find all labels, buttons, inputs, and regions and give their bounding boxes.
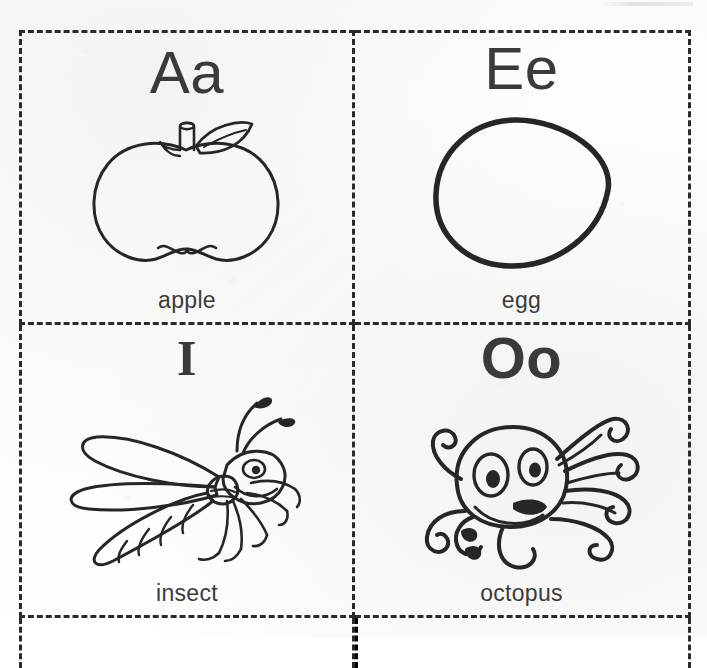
insect-illustration (22, 383, 352, 582)
scan-artifact (597, 2, 693, 6)
flashcard-a[interactable]: Aa apple (19, 30, 355, 325)
flashcard-o[interactable]: Oo (355, 325, 691, 618)
octopus-illustration (355, 387, 688, 582)
flashcard-next-row-left (19, 618, 355, 668)
egg-illustration (355, 99, 688, 289)
letter-heading-i: I (177, 333, 197, 383)
flashcard-grid: Aa apple (19, 30, 691, 638)
letter-heading-o: Oo (481, 329, 563, 387)
caption-insect: insect (156, 582, 218, 605)
flashcard-i[interactable]: I (19, 325, 355, 618)
caption-octopus: octopus (480, 582, 563, 605)
flashcard-next-row-right (355, 618, 691, 668)
letter-heading-e: Ee (484, 39, 558, 99)
letter-heading-a: Aa (150, 43, 224, 103)
caption-egg: egg (502, 289, 541, 312)
caption-apple: apple (158, 289, 216, 312)
apple-illustration (22, 103, 352, 289)
flashcard-e[interactable]: Ee egg (355, 30, 691, 325)
